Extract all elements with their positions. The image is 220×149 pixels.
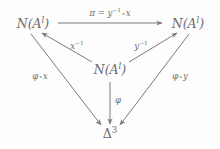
phi-symbol-center: φ bbox=[115, 95, 121, 105]
phi-circ-y-arg: y bbox=[183, 71, 188, 81]
equals-sign: = bbox=[98, 8, 105, 18]
label-y-inverse: y−1 bbox=[134, 42, 147, 51]
label-pi-composition: π = y−1∘x bbox=[89, 9, 130, 18]
node-top-right: N(Al) bbox=[172, 18, 204, 31]
node-top-right-close: ) bbox=[199, 16, 204, 31]
node-bottom-base: Δ bbox=[103, 126, 112, 141]
node-top-left-base: N(A bbox=[17, 16, 42, 31]
y-inverse-exponent: −1 bbox=[139, 40, 148, 46]
phi-circ-x-arg: x bbox=[43, 71, 48, 81]
commutative-diagram: N(Al) N(Al) N(Al) Δ3 π = y−1∘x x−1 y−1 φ… bbox=[0, 0, 220, 149]
label-phi: φ bbox=[115, 96, 121, 105]
node-bottom-superscript: 3 bbox=[112, 125, 117, 135]
node-top-left: N(Al) bbox=[17, 18, 49, 31]
label-x-inverse: x−1 bbox=[70, 42, 83, 51]
pi-symbol: π bbox=[89, 8, 95, 18]
node-top-right-base: N(A bbox=[172, 16, 197, 31]
pi-x: x bbox=[126, 8, 131, 18]
node-center-base: N(A bbox=[94, 62, 119, 77]
node-bottom-delta: Δ3 bbox=[103, 128, 117, 141]
node-top-left-close: ) bbox=[44, 16, 49, 31]
x-inverse-exponent: −1 bbox=[75, 40, 84, 46]
node-center: N(Al) bbox=[94, 64, 126, 77]
label-phi-circ-x: φ∘x bbox=[32, 72, 48, 81]
label-phi-circ-y: φ∘y bbox=[172, 72, 188, 81]
node-center-close: ) bbox=[121, 62, 126, 77]
